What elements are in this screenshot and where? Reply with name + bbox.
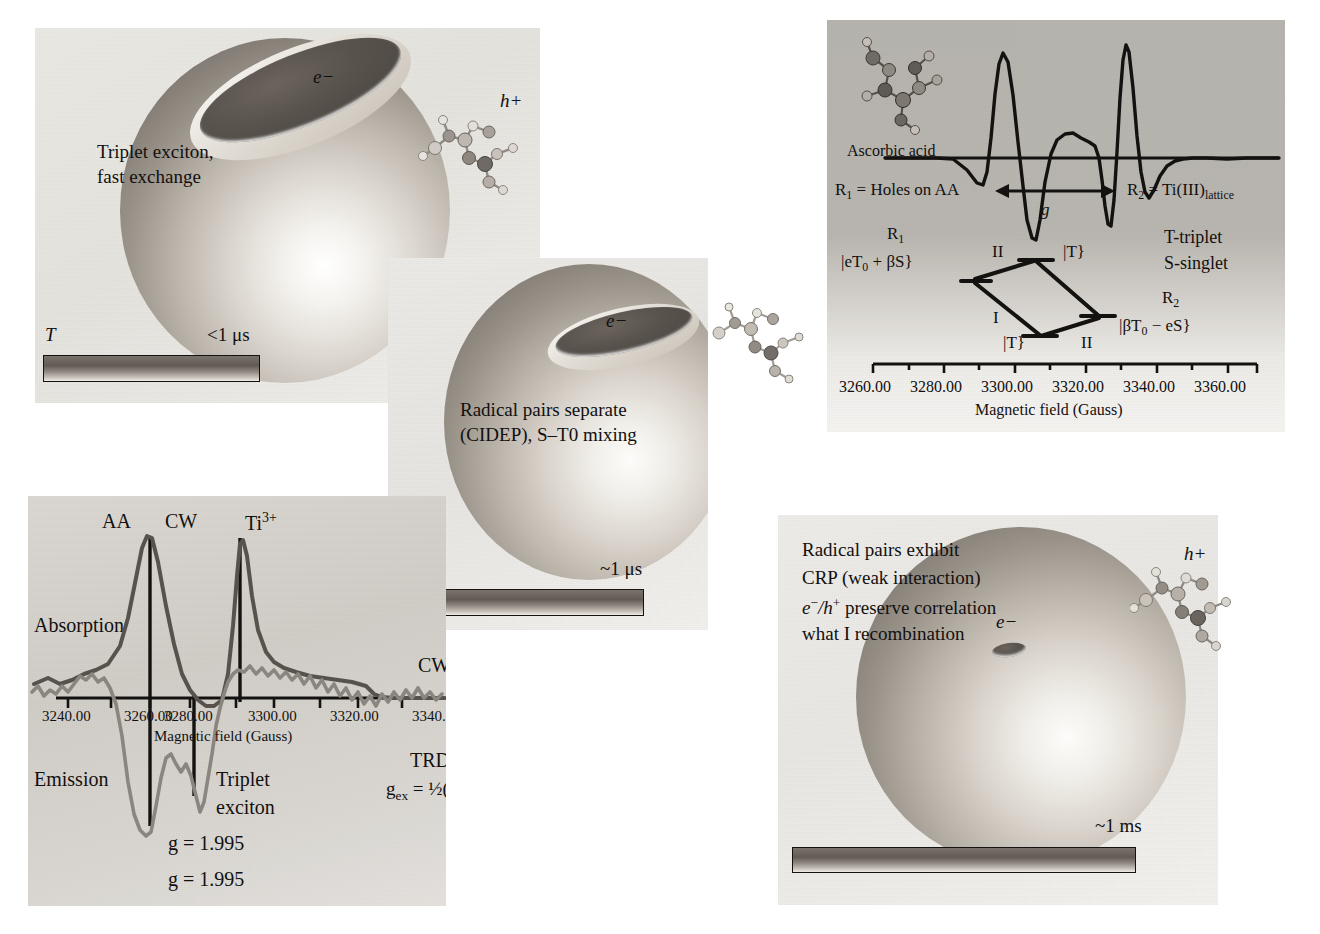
trepr-trace bbox=[827, 20, 1285, 250]
g-symbol-2: g bbox=[168, 868, 178, 890]
spectrum-xtick-2: 3280.00 bbox=[164, 708, 213, 725]
panel-triplet-caption: Triplet exciton, fast exchange bbox=[97, 140, 337, 189]
panel-cw-trdd-spectrum: AA CW Ti3+ Absorption Emission 3240.00 3… bbox=[28, 496, 446, 906]
level-r1-state: |eT0 + βS} bbox=[841, 252, 913, 275]
ascorbic-acid-molecule-icon bbox=[413, 102, 533, 200]
crp-caption-line4: what I recombination bbox=[802, 623, 965, 645]
cw-trace-label: CW bbox=[418, 654, 446, 677]
r2-level-symbol: R bbox=[1162, 288, 1173, 307]
r2-assignment-label: R2 = Ti(III)lattice bbox=[1127, 180, 1234, 203]
level-r2-label: R2 bbox=[1162, 288, 1179, 311]
ascorbic-acid-molecule-icon-cidep bbox=[705, 295, 810, 387]
g-label: g bbox=[1041, 200, 1050, 220]
energy-level-diagram bbox=[957, 246, 1157, 346]
s-state-symbol: S bbox=[895, 252, 904, 271]
time-axis-label: T bbox=[45, 324, 56, 346]
electron-label: e− bbox=[996, 611, 1017, 633]
spectrum-xtick-4: 3320.00 bbox=[330, 708, 379, 725]
gex-symbol: g bbox=[386, 778, 396, 799]
crp-caption-line1: Radical pairs exhibit bbox=[802, 539, 959, 561]
trepr-xtick-2: 3300.00 bbox=[981, 378, 1033, 396]
t0-state-symbol: T bbox=[852, 252, 862, 271]
transition-I: I bbox=[993, 308, 999, 328]
trepr-xlabel: Magnetic field (Gauss) bbox=[975, 401, 1123, 419]
electron-label: e− bbox=[313, 66, 334, 88]
trepr-xtick-1: 3280.00 bbox=[910, 378, 962, 396]
r1-level-symbol: R bbox=[887, 224, 898, 243]
transition-II-top: II bbox=[992, 242, 1003, 262]
panel-cidep-caption: Radical pairs separate (CIDEP), S–T0 mix… bbox=[460, 398, 700, 447]
legend-singlet: S-singlet bbox=[1164, 253, 1228, 274]
time-gradient-bar bbox=[792, 847, 1136, 873]
g-value-label-2: g = 1.995 bbox=[168, 868, 244, 891]
legend-triplet: T-triplet bbox=[1164, 227, 1222, 248]
trepr-xtick-4: 3340.00 bbox=[1123, 378, 1175, 396]
h-symbol: h bbox=[823, 597, 833, 618]
crp-line3-rest: preserve correlation bbox=[845, 597, 996, 618]
r1-assignment-label: R1 = Holes on AA bbox=[835, 180, 959, 203]
trepr-xtick-5: 3360.00 bbox=[1194, 378, 1246, 396]
crp-caption-line2: CRP (weak interaction) bbox=[802, 567, 981, 589]
g-splitting-arrow bbox=[995, 178, 1115, 204]
trdd-trace-label: TRDD bbox=[410, 749, 446, 772]
spectrum-xtick-5: 3340.00 bbox=[412, 708, 446, 725]
electron-label: e− bbox=[606, 310, 627, 332]
triplet-exciton-label-line2: exciton bbox=[216, 796, 275, 819]
trepr-x-axis bbox=[869, 360, 1261, 376]
t-symbol-bottom: T bbox=[1006, 333, 1016, 352]
spectrum-xtick-3: 3300.00 bbox=[248, 708, 297, 725]
crp-time-value: ~1 ms bbox=[1095, 815, 1142, 837]
triplet-time-value: <1 μs bbox=[207, 324, 250, 346]
spectrum-xlabel: Magnetic field (Gauss) bbox=[154, 728, 292, 745]
gex-formula: gex = ½(gh + ge) bbox=[386, 778, 446, 804]
triplet-exciton-label-line1: Triplet bbox=[216, 768, 270, 791]
state-T-top: |T} bbox=[1063, 242, 1085, 262]
r2-symbol: R bbox=[1127, 180, 1138, 199]
transition-II-bottom: II bbox=[1081, 333, 1092, 353]
level-r1-label: R1 bbox=[887, 224, 904, 247]
t-symbol-top: T bbox=[1066, 242, 1076, 261]
time-gradient-bar bbox=[43, 355, 260, 382]
trepr-xtick-3: 3320.00 bbox=[1052, 378, 1104, 396]
s-state-symbol-2: S bbox=[1173, 316, 1182, 335]
ascorbic-acid-molecule-icon-crp bbox=[1130, 558, 1240, 654]
g-symbol-1: g bbox=[168, 832, 178, 854]
trepr-xtick-0: 3260.00 bbox=[839, 378, 891, 396]
state-T-bottom: |T} bbox=[1003, 333, 1025, 353]
panel-trepr-spectrum: Ascorbic acid g R1 = Holes on AA R2 = Ti… bbox=[827, 20, 1285, 432]
r1-symbol: R bbox=[835, 180, 846, 199]
crp-caption-line3: e−/h+ preserve correlation bbox=[802, 595, 996, 619]
cidep-time-value: ~1 μs bbox=[600, 558, 642, 580]
g-value-label-1: g = 1.995 bbox=[168, 832, 244, 855]
spectrum-xtick-0: 3240.00 bbox=[42, 708, 91, 725]
